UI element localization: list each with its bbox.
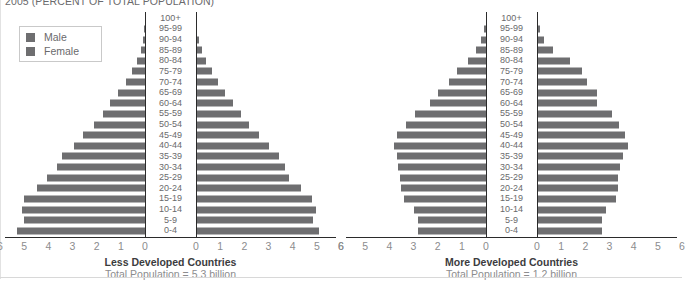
age-group-label: 10-14 xyxy=(145,205,196,214)
age-group-label: 75-79 xyxy=(486,67,537,76)
x-axis-tick-label: 5 xyxy=(362,240,368,252)
male-bar xyxy=(83,132,145,139)
female-bar xyxy=(196,174,289,181)
age-group-label: 55-59 xyxy=(145,109,196,118)
age-label-cell: 50-54 xyxy=(145,120,196,129)
male-bar-cell xyxy=(341,194,486,205)
x-axis-tick-label: 6 xyxy=(0,240,3,252)
pyramid-row: 20-24 xyxy=(0,183,341,194)
pyramid-row: 80-84 xyxy=(341,56,682,67)
age-group-label: 0-4 xyxy=(486,226,537,235)
male-bar-cell xyxy=(0,87,145,98)
caption-subtitle-more: Total Population = 1.2 billion xyxy=(341,268,682,281)
zero-axis-male-more xyxy=(486,12,488,237)
male-bar xyxy=(401,185,486,192)
female-bar xyxy=(196,164,285,171)
male-bar-cell xyxy=(341,109,486,120)
age-label-cell: 75-79 xyxy=(145,67,196,76)
age-label-cell: 85-89 xyxy=(486,46,537,55)
age-label-cell: 95-99 xyxy=(145,24,196,33)
female-bar xyxy=(537,47,553,54)
age-group-label: 35-39 xyxy=(145,152,196,161)
pyramid-row: 90-94 xyxy=(341,34,682,45)
age-group-label: 60-64 xyxy=(145,99,196,108)
pyramid-row: 10-14 xyxy=(0,204,341,215)
age-group-label: 40-44 xyxy=(486,141,537,150)
male-bar xyxy=(126,79,145,86)
female-bar-cell xyxy=(537,66,682,77)
x-axis-tick-label: 4 xyxy=(290,240,296,252)
age-group-label: 95-99 xyxy=(145,24,196,33)
x-axis-tick-label: 4 xyxy=(386,240,392,252)
male-bar xyxy=(397,132,486,139)
panel-more-developed-countries: 100+95-9990-9485-8980-8475-7970-7465-696… xyxy=(341,8,682,279)
male-bar-cell xyxy=(341,204,486,215)
pyramid-row: 60-64 xyxy=(0,98,341,109)
pyramid-row: 25-29 xyxy=(0,172,341,183)
pyramid-row: 15-19 xyxy=(341,194,682,205)
female-bar xyxy=(196,185,301,192)
female-bar-cell xyxy=(537,141,682,152)
x-axis-tick-label: 3 xyxy=(70,240,76,252)
male-bar-cell xyxy=(0,98,145,109)
x-axis-tick-label: 3 xyxy=(266,240,272,252)
bar-rows-less-developed: 100+95-9990-9485-8980-8475-7970-7465-696… xyxy=(0,13,341,236)
figure-bottom-rule xyxy=(0,277,682,278)
age-group-label: 80-84 xyxy=(486,56,537,65)
female-bar-cell xyxy=(196,66,341,77)
age-label-cell: 20-24 xyxy=(145,184,196,193)
female-bar-cell xyxy=(537,215,682,226)
female-bar xyxy=(537,174,618,181)
female-bar-cell xyxy=(196,183,341,194)
age-label-cell: 10-14 xyxy=(486,205,537,214)
female-bar xyxy=(196,195,312,202)
male-bar xyxy=(438,89,486,96)
female-bar-cell xyxy=(196,194,341,205)
x-axis-tick-label: 3 xyxy=(607,240,613,252)
age-group-label: 40-44 xyxy=(145,141,196,150)
caption-title-less: Less Developed Countries xyxy=(0,256,341,268)
pyramid-row: 85-89 xyxy=(0,45,341,56)
age-label-cell: 65-69 xyxy=(486,88,537,97)
female-bar-cell xyxy=(196,109,341,120)
female-bar xyxy=(537,142,628,149)
male-bar-cell xyxy=(0,151,145,162)
female-bar-cell xyxy=(196,13,341,24)
male-bar xyxy=(24,195,145,202)
x-axis-tick-label: 5 xyxy=(314,240,320,252)
age-label-cell: 75-79 xyxy=(486,67,537,76)
female-bar xyxy=(196,79,218,86)
male-bar-cell xyxy=(0,204,145,215)
pyramid-row: 45-49 xyxy=(341,130,682,141)
pyramid-row: 10-14 xyxy=(341,204,682,215)
female-bar-cell xyxy=(537,172,682,183)
female-bar xyxy=(196,142,269,149)
pyramid-row: 40-44 xyxy=(0,141,341,152)
female-bar xyxy=(537,132,625,139)
female-bar xyxy=(537,68,582,75)
male-bar xyxy=(397,153,486,160)
age-group-label: 70-74 xyxy=(486,78,537,87)
age-group-label: 35-39 xyxy=(486,152,537,161)
female-bar-cell xyxy=(537,194,682,205)
age-group-label: 45-49 xyxy=(486,131,537,140)
pyramid-row: 30-34 xyxy=(0,162,341,173)
female-bar xyxy=(196,68,212,75)
x-axis-tick-label: 1 xyxy=(118,240,124,252)
x-axis-tick-label: 0 xyxy=(193,240,199,252)
male-bar xyxy=(468,57,486,64)
female-bar xyxy=(537,110,612,117)
female-bar xyxy=(537,164,620,171)
male-bar xyxy=(430,100,486,107)
male-bar xyxy=(406,121,486,128)
male-bar xyxy=(24,217,145,224)
female-bar-cell xyxy=(196,98,341,109)
male-bar xyxy=(132,68,145,75)
age-label-cell: 45-49 xyxy=(145,131,196,140)
plot-area-less-developed: 100+95-9990-9485-8980-8475-7970-7465-696… xyxy=(0,8,341,236)
male-bar-cell xyxy=(341,141,486,152)
age-label-cell: 55-59 xyxy=(145,109,196,118)
male-bar xyxy=(415,110,486,117)
male-bar-cell xyxy=(341,34,486,45)
chart-title: 2005 (PERCENT OF TOTAL POPULATION) xyxy=(5,0,214,7)
